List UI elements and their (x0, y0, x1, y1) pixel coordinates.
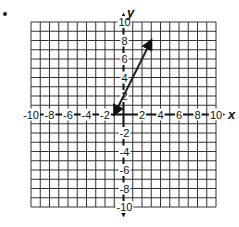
x-tick-label: 10 (210, 109, 222, 121)
y-tick-label: -6 (120, 164, 130, 176)
x-tick-label: -10 (23, 109, 39, 121)
x-tick-label: 8 (194, 109, 200, 121)
coordinate-plane: -10-8-6-4-2246810108642-2-4-6-8-10 x y (0, 0, 239, 227)
y-tick-label: -8 (120, 183, 130, 195)
x-tick-label: 2 (139, 109, 145, 121)
x-tick-label: 4 (157, 109, 163, 121)
x-tick-label: 6 (176, 109, 182, 121)
x-tick-label: -8 (45, 109, 55, 121)
x-tick-label: -4 (82, 109, 92, 121)
x-axis-label: x (227, 107, 236, 122)
y-tick-label: 8 (121, 35, 127, 47)
y-tick-label: -2 (120, 127, 130, 139)
y-tick-label: 4 (121, 72, 127, 84)
x-tick-label: -6 (63, 109, 73, 121)
y-tick-label: -10 (117, 201, 133, 213)
y-tick-label: 6 (121, 53, 127, 65)
x-tick-label: -2 (100, 109, 110, 121)
y-axis-label: y (126, 5, 135, 20)
y-tick-label: -4 (120, 146, 130, 158)
